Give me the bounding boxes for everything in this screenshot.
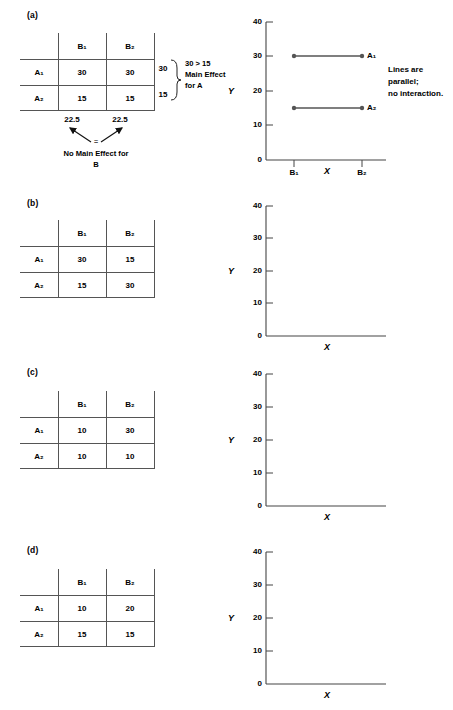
- table-rule-col3: [154, 391, 155, 469]
- panel-a-y-axis-label: Y: [228, 86, 234, 96]
- panel-d-ytick-10: 10: [242, 646, 262, 655]
- table-row-header-a1: A₁: [20, 246, 58, 272]
- no-main-effect-b-line-1: No Main Effect for: [30, 148, 162, 159]
- panel-b: (b) B₁ B₂ A₁ 30 15 A₂ 15 30 40 30 20 10 …: [0, 190, 453, 352]
- panel-d-ytick-0: 0: [242, 679, 262, 688]
- table-row-header-a1: A₁: [20, 417, 58, 443]
- panel-a-chart: 40 30 20 10 0 Y X B₁ B₂ A₁ A₂: [228, 8, 388, 186]
- main-effect-a-line-1: 30 > 15: [185, 58, 226, 69]
- panel-d: (d) B₁ B₂ A₁ 10 20 A₂ 15 15 40 30 20 10 …: [0, 530, 453, 710]
- panel-c-x-axis-label: X: [324, 512, 330, 522]
- main-effect-a-line-2: Main Effect: [185, 69, 226, 80]
- table-cell-a1b2: 20: [106, 595, 154, 621]
- series-a1-point-b1: [292, 54, 296, 58]
- table-cell-a2b1: 15: [58, 621, 106, 647]
- panel-c-ytick-20: 20: [242, 435, 262, 444]
- main-effect-a-brace: [170, 58, 182, 106]
- panel-a-ytick-40: 40: [242, 17, 262, 26]
- panel-d-chart: 40 30 20 10 0 Y X: [228, 542, 388, 694]
- panel-c-ytick-40: 40: [242, 369, 262, 378]
- series-a1-point-b2: [360, 54, 364, 58]
- main-effect-a-annotation: 30 > 15 Main Effect for A: [185, 58, 226, 91]
- panel-d-label: (d): [27, 545, 38, 555]
- panel-b-chart: 40 30 20 10 0 Y X: [228, 196, 388, 346]
- table-cell-a2b2: 15: [106, 85, 154, 111]
- chart-note-line-1: Lines are: [388, 64, 443, 76]
- table-row-header-a1: A₁: [20, 59, 58, 85]
- panel-a-ytick-20: 20: [242, 86, 262, 95]
- table-col-header-b2: B₂: [106, 220, 154, 246]
- panel-a: (a) B₁ B₂ A₁ 30 30 A₂ 15 15 30 15 30 > 1…: [0, 0, 453, 190]
- panel-b-ytick-10: 10: [242, 298, 262, 307]
- panel-a-chart-note: Lines are parallel; no interaction.: [388, 64, 443, 100]
- table-row-header-a2: A₂: [20, 621, 58, 647]
- main-effect-a-line-3: for A: [185, 80, 226, 91]
- series-a2-point-b2: [360, 106, 364, 110]
- panel-a-label: (a): [27, 10, 38, 20]
- panel-b-table: B₁ B₂ A₁ 30 15 A₂ 15 30: [20, 220, 155, 298]
- series-a2-point-b1: [292, 106, 296, 110]
- table-row-header-a2: A₂: [20, 443, 58, 469]
- panel-d-ytick-40: 40: [242, 547, 262, 556]
- panel-a-x-axis-label: X: [324, 166, 330, 176]
- table-cell-a1b2: 30: [106, 417, 154, 443]
- panel-a-series-label-a1: A₁: [367, 51, 376, 60]
- table-row-header-a1: A₁: [20, 595, 58, 621]
- panel-d-ytick-20: 20: [242, 613, 262, 622]
- row-margin-a1: 30: [156, 64, 170, 73]
- svg-text:=: =: [94, 138, 98, 145]
- table-col-header-b2: B₂: [106, 391, 154, 417]
- table-col-header-b1: B₁: [58, 569, 106, 595]
- table-cell-a2b2: 10: [106, 443, 154, 469]
- panel-b-ytick-0: 0: [242, 331, 262, 340]
- no-main-effect-b-line-2: B: [30, 159, 162, 170]
- panel-c-chart: 40 30 20 10 0 Y X: [228, 364, 388, 516]
- table-col-header-b2: B₂: [106, 33, 154, 59]
- table-cell-a2b1: 15: [58, 272, 106, 298]
- panel-b-ytick-20: 20: [242, 266, 262, 275]
- chart-note-line-2: parallel;: [388, 76, 443, 88]
- table-cell-a1b1: 10: [58, 595, 106, 621]
- panel-c-ytick-0: 0: [242, 501, 262, 510]
- panel-c-label: (c): [27, 367, 38, 377]
- panel-b-ytick-40: 40: [242, 201, 262, 210]
- table-cell-a2b1: 15: [58, 85, 106, 111]
- table-col-header-b1: B₁: [58, 33, 106, 59]
- no-main-effect-b-annotation: No Main Effect for B: [30, 148, 162, 170]
- panel-d-x-axis-label: X: [324, 690, 330, 700]
- panel-c-ytick-10: 10: [242, 468, 262, 477]
- table-cell-a2b1: 10: [58, 443, 106, 469]
- panel-a-table: B₁ B₂ A₁ 30 30 A₂ 15 15: [20, 33, 155, 111]
- table-rule-col3: [154, 220, 155, 298]
- panel-c-y-axis-label: Y: [228, 435, 234, 445]
- table-cell-a1b1: 30: [58, 246, 106, 272]
- panel-c-ytick-30: 30: [242, 402, 262, 411]
- row-margin-a2: 15: [156, 90, 170, 99]
- table-col-header-b1: B₁: [58, 220, 106, 246]
- panel-a-xtick-b2: B₂: [352, 168, 372, 177]
- panel-a-ytick-0: 0: [242, 155, 262, 164]
- panel-d-table: B₁ B₂ A₁ 10 20 A₂ 15 15: [20, 569, 155, 647]
- panel-b-x-axis-label: X: [324, 342, 330, 352]
- panel-a-series-label-a2: A₂: [367, 103, 376, 112]
- table-cell-a2b2: 15: [106, 621, 154, 647]
- table-rule-col3: [154, 33, 155, 111]
- panel-d-ytick-30: 30: [242, 580, 262, 589]
- table-col-header-b1: B₁: [58, 391, 106, 417]
- no-main-effect-b-arrows: =: [62, 125, 130, 149]
- panel-a-xtick-b1: B₁: [284, 168, 304, 177]
- panel-c-table: B₁ B₂ A₁ 10 30 A₂ 10 10: [20, 391, 155, 469]
- col-margin-b2: 22.5: [106, 115, 134, 124]
- table-rule-col3: [154, 569, 155, 647]
- panel-b-ytick-30: 30: [242, 233, 262, 242]
- panel-b-y-axis-label: Y: [228, 266, 234, 276]
- table-cell-a1b2: 15: [106, 246, 154, 272]
- panel-b-label: (b): [27, 198, 38, 208]
- table-cell-a2b2: 30: [106, 272, 154, 298]
- col-margin-b1: 22.5: [58, 115, 86, 124]
- table-col-header-b2: B₂: [106, 569, 154, 595]
- table-cell-a1b2: 30: [106, 59, 154, 85]
- panel-c: (c) B₁ B₂ A₁ 10 30 A₂ 10 10 40 30 20 10 …: [0, 352, 453, 530]
- brace-icon: [170, 58, 182, 102]
- table-cell-a1b1: 30: [58, 59, 106, 85]
